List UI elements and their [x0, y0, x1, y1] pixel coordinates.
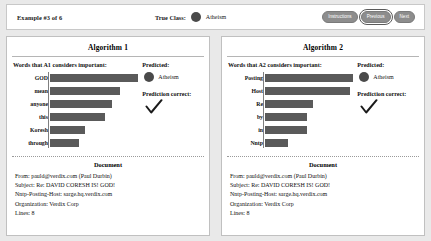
bar-track [50, 72, 138, 83]
algorithm-1-bar-chart: GOD mean anyone [13, 72, 138, 148]
bar-row: by [228, 111, 353, 122]
algorithm-2-words-heading: Words that A2 considers important: [228, 62, 353, 68]
algorithm-2-body: Words that A2 considers important: Posti… [222, 57, 424, 150]
document-line: Subject: Re: DAVID CORESH IS! GOD! [15, 181, 209, 190]
bar-label: anyone [13, 101, 50, 107]
bar-row: Posting [228, 72, 353, 83]
predicted-class-color-dot [144, 72, 154, 82]
bar-row: through [13, 137, 138, 148]
algorithm-1-words-heading: Words that A1 considers important: [13, 62, 138, 68]
algorithm-1-title: Algorithm 1 [7, 43, 209, 52]
bar-track [265, 124, 353, 135]
algorithm-2-prediction-column: Predicted: Atheism Prediction correct: [353, 62, 418, 150]
bar-fill [50, 126, 85, 134]
bar-label: by [228, 114, 265, 120]
top-header-bar: Example #3 of 6 True Class: Atheism Inst… [6, 4, 425, 30]
bar-label: GOD [13, 75, 50, 81]
bar-label: Re [228, 101, 265, 107]
bar-track [265, 72, 353, 83]
example-counter: Example #3 of 6 [17, 14, 62, 21]
bar-track [265, 85, 353, 96]
bar-track [265, 137, 353, 148]
bar-row: anyone [13, 98, 138, 109]
bar-fill [265, 139, 288, 147]
bar-fill [50, 113, 105, 121]
true-class-color-dot [191, 12, 201, 22]
bar-fill [50, 100, 112, 108]
bar-label: Nntp [228, 140, 265, 146]
bar-fill [50, 87, 120, 95]
bar-fill [265, 100, 313, 108]
check-icon [145, 99, 203, 119]
algorithm-1-document-title: Document [7, 161, 209, 168]
bar-track [50, 98, 138, 109]
document-line: Lines: 8 [230, 209, 424, 218]
bar-fill [265, 113, 307, 121]
algorithm-2-panel: Algorithm 2 Words that A2 considers impo… [221, 36, 425, 236]
algorithm-1-correct-heading: Prediction correct: [142, 91, 203, 97]
algorithm-2-predicted-value-row: Atheism [359, 72, 418, 82]
bar-row: Koresh [13, 124, 138, 135]
algorithm-1-panel: Algorithm 1 Words that A1 considers impo… [6, 36, 210, 236]
document-line: From: pauld@verdix.com (Paul Durbin) [15, 172, 209, 181]
document-line: Subject: Re: DAVID CORESH IS! GOD! [230, 181, 424, 190]
document-separator [12, 156, 204, 157]
bar-track [265, 98, 353, 109]
bar-row: GOD [13, 72, 138, 83]
previous-button[interactable]: Previous [361, 11, 391, 23]
bar-track [50, 137, 138, 148]
bar-track [265, 111, 353, 122]
bar-row: Nntp [228, 137, 353, 148]
bar-fill [265, 126, 307, 134]
document-line: Nntp-Posting-Host: sarge.hq.verdix.com [15, 190, 209, 199]
algorithm-2-correct-heading: Prediction correct: [357, 91, 418, 97]
algorithm-1-chart-column: Words that A1 considers important: GOD m… [13, 62, 138, 150]
algorithm-1-predicted-value-row: Atheism [144, 72, 203, 82]
algorithm-2-predicted-heading: Predicted: [357, 62, 418, 68]
bar-row: Re [228, 98, 353, 109]
bar-row: mean [13, 85, 138, 96]
bar-label: Posting [228, 75, 265, 81]
true-class-label: True Class: [155, 14, 186, 21]
next-button[interactable]: Next [394, 11, 415, 23]
bar-track [50, 124, 138, 135]
bar-row: Host [228, 85, 353, 96]
document-separator [227, 156, 419, 157]
predicted-class-value: Atheism [158, 74, 178, 80]
bar-fill [50, 74, 138, 82]
bar-fill [265, 87, 350, 95]
algorithm-2-bar-chart: Posting Host Re [228, 72, 353, 148]
bar-track [50, 111, 138, 122]
document-line: Nntp-Posting-Host: sarge.hq.verdix.com [230, 190, 424, 199]
instructions-button[interactable]: Instructions [322, 11, 358, 23]
bar-label: through [13, 140, 50, 146]
document-line: Organization: Verdix Corp [230, 200, 424, 209]
bar-fill [265, 74, 353, 82]
document-line: Lines: 8 [15, 209, 209, 218]
true-class-group: True Class: Atheism [155, 12, 226, 22]
bar-row: in [228, 124, 353, 135]
algorithm-1-predicted-heading: Predicted: [142, 62, 203, 68]
document-line: Organization: Verdix Corp [15, 200, 209, 209]
bar-track [50, 85, 138, 96]
predicted-class-value: Atheism [373, 74, 393, 80]
bar-label: this [13, 114, 50, 120]
algorithm-2-document-title: Document [222, 161, 424, 168]
check-icon [360, 99, 418, 119]
true-class-value: Atheism [206, 14, 226, 20]
bar-row: this [13, 111, 138, 122]
algorithm-1-body: Words that A1 considers important: GOD m… [7, 57, 209, 150]
algorithm-2-document-body: From: pauld@verdix.com (Paul Durbin) Sub… [222, 168, 424, 218]
algorithm-2-chart-column: Words that A2 considers important: Posti… [228, 62, 353, 150]
chart-axis-line [263, 72, 264, 148]
algorithm-2-title: Algorithm 2 [222, 43, 424, 52]
document-line: From: pauld@verdix.com (Paul Durbin) [230, 172, 424, 181]
bar-label: Host [228, 88, 265, 94]
chart-axis-line [48, 72, 49, 148]
bar-label: in [228, 127, 265, 133]
navigation-buttons: Instructions Previous Next [322, 11, 415, 23]
bar-label: Koresh [13, 127, 50, 133]
bar-label: mean [13, 88, 50, 94]
bar-fill [50, 139, 79, 147]
algorithm-1-document-body: From: pauld@verdix.com (Paul Durbin) Sub… [7, 168, 209, 218]
